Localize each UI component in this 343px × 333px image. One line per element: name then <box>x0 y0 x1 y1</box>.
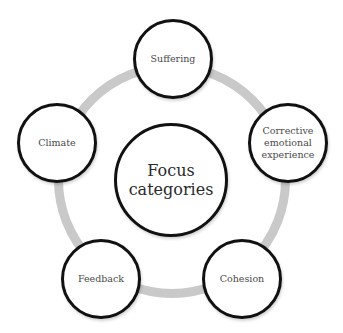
node-feedback: Feedback <box>61 239 141 319</box>
node-climate: Climate <box>17 103 97 183</box>
node-suffering: Suffering <box>133 19 213 99</box>
node-label: Corrective emotional experience <box>262 125 315 161</box>
node-label: Feedback <box>78 273 124 285</box>
node-label: Cohesion <box>220 273 264 285</box>
node-cohesion: Cohesion <box>202 239 282 319</box>
node-corrective-emotional-experience: Corrective emotional experience <box>248 103 328 183</box>
focus-categories-diagram: Focus categories Suffering Corrective em… <box>0 0 343 333</box>
center-label: Focus categories <box>129 161 214 199</box>
node-label: Suffering <box>151 53 196 65</box>
node-label: Climate <box>38 137 75 149</box>
center-node-focus-categories: Focus categories <box>114 123 228 237</box>
